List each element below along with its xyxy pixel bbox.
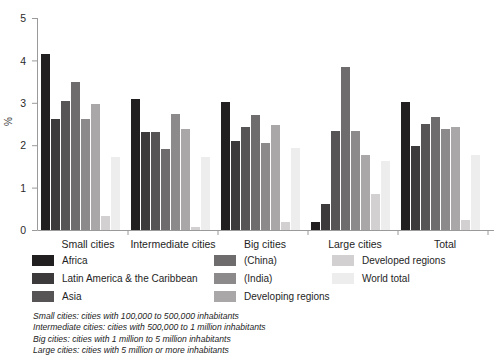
- bar: [291, 148, 300, 230]
- bar: [471, 155, 480, 230]
- bar: [181, 129, 190, 230]
- bar: [91, 104, 100, 230]
- bar: [421, 124, 430, 230]
- legend-item[interactable]: (India): [214, 270, 330, 287]
- x-tick-label-intermediate-cities: Intermediate cities: [128, 238, 218, 250]
- legend-label: (China): [244, 256, 277, 266]
- bar: [431, 117, 440, 230]
- bar: [251, 115, 260, 230]
- bar: [151, 132, 160, 230]
- bar: [461, 220, 470, 230]
- legend-item[interactable]: (China): [214, 252, 330, 269]
- legend-item[interactable]: Asia: [32, 288, 198, 305]
- legend-swatch: [214, 291, 236, 302]
- legend-label: World total: [362, 274, 410, 284]
- bar: [161, 149, 170, 230]
- bar: [101, 216, 110, 230]
- footnote-big-cities: Big cities: cities with 1 million to 5 m…: [33, 334, 473, 345]
- bar: [451, 127, 460, 230]
- legend-item[interactable]: World total: [332, 270, 445, 287]
- bar: [381, 161, 390, 230]
- bar: [261, 143, 270, 230]
- footnotes: Small cities: cities with 100,000 to 500…: [33, 311, 473, 356]
- legend-label: Latin America & the Caribbean: [62, 274, 198, 284]
- chart-legend: AfricaLatin America & the CaribbeanAsia(…: [32, 252, 504, 307]
- footnote-intermediate-cities: Intermediate cities: cities with 500,000…: [33, 322, 473, 333]
- legend-label: Developing regions: [244, 292, 330, 302]
- legend-item[interactable]: Developing regions: [214, 288, 330, 305]
- legend-swatch: [332, 273, 354, 284]
- legend-swatch: [32, 255, 54, 266]
- x-tick-label-big-cities: Big cities: [220, 238, 310, 250]
- bar: [401, 102, 410, 230]
- legend-swatch: [32, 291, 54, 302]
- bar: [281, 222, 290, 230]
- y-tick-2: 2: [10, 140, 26, 151]
- legend-column: AfricaLatin America & the CaribbeanAsia: [32, 252, 198, 306]
- legend-swatch: [32, 273, 54, 284]
- bar: [371, 194, 380, 230]
- bar-group: [131, 18, 211, 230]
- legend-swatch: [214, 255, 236, 266]
- bar: [361, 155, 370, 230]
- bar: [221, 102, 230, 230]
- legend-item[interactable]: Developed regions: [332, 252, 445, 269]
- footnote-small-cities: Small cities: cities with 100,000 to 500…: [33, 311, 473, 322]
- bar: [191, 227, 200, 230]
- chart-figure: % 5 4 3 2 1 0 Small cities Int: [0, 0, 504, 361]
- bar-group: [221, 18, 301, 230]
- bar: [241, 127, 250, 230]
- legend-label: (India): [244, 274, 272, 284]
- bar: [111, 157, 120, 230]
- bar: [331, 131, 340, 230]
- legend-label: Developed regions: [362, 256, 445, 266]
- y-tick-5: 5: [10, 13, 26, 24]
- bar-group: [401, 18, 481, 230]
- legend-item[interactable]: Latin America & the Caribbean: [32, 270, 198, 287]
- y-tick-4: 4: [10, 56, 26, 67]
- legend-swatch: [332, 255, 354, 266]
- bar: [351, 131, 360, 230]
- bar: [311, 222, 320, 230]
- bar: [201, 157, 210, 230]
- y-tick-1: 1: [10, 183, 26, 194]
- bar: [411, 146, 420, 230]
- legend-column: Developed regionsWorld total: [332, 252, 445, 288]
- bar: [321, 204, 330, 230]
- bar: [51, 119, 60, 230]
- bar: [61, 101, 70, 230]
- legend-column: (China)(India)Developing regions: [214, 252, 330, 306]
- x-tick-label-small-cities: Small cities: [43, 238, 133, 250]
- bar: [81, 119, 90, 231]
- bar: [231, 141, 240, 230]
- legend-label: Asia: [62, 292, 81, 302]
- bar-group: [41, 18, 121, 230]
- x-tick-label-total: Total: [400, 238, 490, 250]
- legend-label: Africa: [62, 256, 88, 266]
- bars-area: [38, 18, 494, 230]
- bar: [441, 129, 450, 230]
- bar: [71, 82, 80, 230]
- footnote-large-cities: Large cities: cities with 5 million or m…: [33, 345, 473, 356]
- y-tick-3: 3: [10, 98, 26, 109]
- plot-area: % 5 4 3 2 1 0 Small cities Int: [0, 8, 504, 253]
- bar: [141, 132, 150, 230]
- bar: [271, 125, 280, 230]
- bar: [341, 67, 350, 230]
- y-tick-0: 0: [10, 225, 26, 236]
- bar-group: [311, 18, 391, 230]
- legend-swatch: [214, 273, 236, 284]
- bar: [41, 54, 50, 230]
- legend-item[interactable]: Africa: [32, 252, 198, 269]
- x-tick-label-large-cities: Large cities: [310, 238, 400, 250]
- bar: [131, 99, 140, 230]
- bar: [171, 114, 180, 230]
